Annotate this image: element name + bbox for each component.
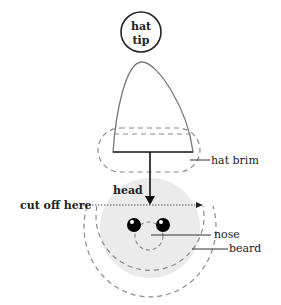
left-eye [127,218,141,232]
hat-tip-label-line2: tip [133,34,150,47]
beard-label: beard [229,242,261,255]
hat-brim-label: hat brim [211,154,259,167]
right-eye [156,218,170,232]
hat-tip-label-line1: hat [131,20,152,33]
head-label: head [113,184,143,197]
nose-label: nose [214,228,240,241]
cut-off-arrow-icon [196,202,203,208]
gnome-diagram: hat tip hat brim head cut off here nose … [0,0,281,305]
cut-off-label: cut off here [20,199,92,212]
hat-body [113,62,193,152]
